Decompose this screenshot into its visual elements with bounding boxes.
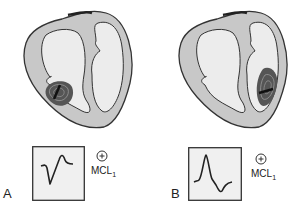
ecg-strip-b: [188, 147, 242, 201]
lead-label-b: MCL1: [251, 168, 276, 181]
lead-subscript-b: 1: [272, 174, 276, 181]
panel-label-a: A: [3, 186, 12, 201]
lead-name-a: MCL: [91, 165, 112, 176]
panel-label-b: B: [171, 186, 180, 201]
positive-electrode-icon-a: [96, 150, 108, 162]
lead-name-b: MCL: [251, 168, 272, 179]
lead-subscript-a: 1: [112, 171, 116, 178]
lead-label-a: MCL1: [91, 165, 116, 178]
positive-electrode-icon-b: [255, 153, 267, 165]
ecg-strip-a: [32, 146, 85, 201]
heart-diagram-a: [20, 5, 135, 130]
heart-diagram-b: [175, 5, 290, 130]
